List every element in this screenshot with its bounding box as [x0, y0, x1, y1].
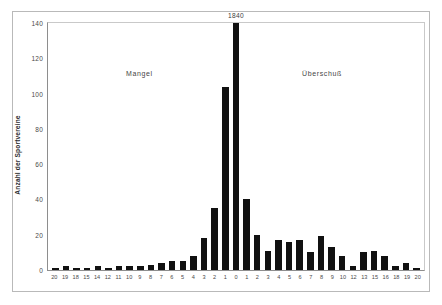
bar-slot	[379, 23, 390, 270]
y-tick-label: 20	[35, 231, 43, 238]
bar-slot	[348, 23, 359, 270]
bar	[318, 236, 325, 270]
x-tick-label: 16	[380, 274, 391, 288]
bar	[265, 251, 272, 270]
bar-slot	[124, 23, 135, 270]
peak-value-annotation: 1840	[228, 12, 244, 19]
x-tick-label: 13	[359, 274, 370, 288]
bar	[307, 252, 314, 270]
bar	[190, 256, 197, 270]
bar-slot	[114, 23, 125, 270]
bar	[350, 266, 357, 270]
bar-slot	[156, 23, 167, 270]
bar	[211, 208, 218, 270]
bar-slot	[71, 23, 82, 270]
bar	[63, 266, 70, 270]
region-label-left: Mangel	[126, 70, 153, 77]
bar-slot	[135, 23, 146, 270]
x-tick-label: 5	[177, 274, 188, 288]
x-tick-label: 6	[295, 274, 306, 288]
x-tick-label: 7	[306, 274, 317, 288]
bar	[158, 263, 165, 270]
chart-figure: Anzahl der Sportvereine 0204060801001201…	[0, 0, 442, 305]
bar-slot	[284, 23, 295, 270]
x-tick-label: 8	[316, 274, 327, 288]
x-tick-label: 12	[102, 274, 113, 288]
bar	[222, 87, 229, 270]
x-tick-label: 18	[391, 274, 402, 288]
x-tick-label: 1	[241, 274, 252, 288]
bar-slot	[50, 23, 61, 270]
bar-slot	[82, 23, 93, 270]
bar	[254, 235, 261, 270]
x-tick-label: 14	[92, 274, 103, 288]
bar-slot	[273, 23, 284, 270]
bar	[243, 199, 250, 270]
bar	[392, 266, 399, 270]
x-tick-label: 2	[209, 274, 220, 288]
bar-slot	[337, 23, 348, 270]
y-tick-label: 140	[32, 20, 43, 27]
bar-slot	[220, 23, 231, 270]
x-tick-label: 8	[145, 274, 156, 288]
x-tick-label: 9	[327, 274, 338, 288]
y-axis-title: Anzahl der Sportvereine	[14, 115, 21, 194]
x-tick-label: 10	[124, 274, 135, 288]
bar-slot	[61, 23, 72, 270]
y-tick-label: 0	[39, 267, 43, 274]
x-tick-label: 12	[348, 274, 359, 288]
bar-slot	[305, 23, 316, 270]
x-tick-label: 15	[81, 274, 92, 288]
bar-slot	[103, 23, 114, 270]
bar-slot	[199, 23, 210, 270]
bar	[52, 268, 59, 270]
x-tick-label: 20	[412, 274, 423, 288]
bar	[371, 251, 378, 270]
bar	[328, 247, 335, 270]
bar-slot	[209, 23, 220, 270]
x-tick-label: 1	[220, 274, 231, 288]
y-tick-label: 80	[35, 125, 43, 132]
x-tick-label: 19	[402, 274, 413, 288]
x-tick-label: 10	[338, 274, 349, 288]
bar	[137, 266, 144, 270]
bar-slot	[358, 23, 369, 270]
x-tick-label: 15	[370, 274, 381, 288]
bar-slot	[316, 23, 327, 270]
x-tick-label: 0	[231, 274, 242, 288]
x-tick-label: 7	[156, 274, 167, 288]
bar	[403, 263, 410, 270]
y-tick-label: 40	[35, 196, 43, 203]
y-tick-label: 60	[35, 161, 43, 168]
region-label-right: Überschuß	[302, 70, 342, 77]
y-tick-label: 100	[32, 90, 43, 97]
bar	[286, 242, 293, 270]
bar	[339, 256, 346, 270]
x-tick-label: 4	[188, 274, 199, 288]
x-tick-label: 3	[199, 274, 210, 288]
bar	[126, 266, 133, 270]
x-tick-label: 2	[252, 274, 263, 288]
bar-slot	[401, 23, 412, 270]
plot-area: 020406080100120140 1840MangelÜberschuß	[47, 22, 425, 271]
bar	[105, 268, 112, 270]
bar-slot	[252, 23, 263, 270]
bar-series	[48, 23, 424, 270]
x-tick-label: 6	[167, 274, 178, 288]
bar	[296, 240, 303, 270]
bar-slot	[178, 23, 189, 270]
bar	[84, 268, 91, 270]
x-tick-label: 19	[60, 274, 71, 288]
bar-slot	[326, 23, 337, 270]
bar-slot	[167, 23, 178, 270]
bar-slot	[231, 23, 242, 270]
bar	[148, 265, 155, 270]
bar	[95, 266, 102, 270]
bar	[275, 240, 282, 270]
bar	[116, 266, 123, 270]
bar	[360, 252, 367, 270]
x-tick-label: 11	[113, 274, 124, 288]
bar	[381, 256, 388, 270]
x-tick-label: 3	[263, 274, 274, 288]
bar	[413, 268, 420, 270]
